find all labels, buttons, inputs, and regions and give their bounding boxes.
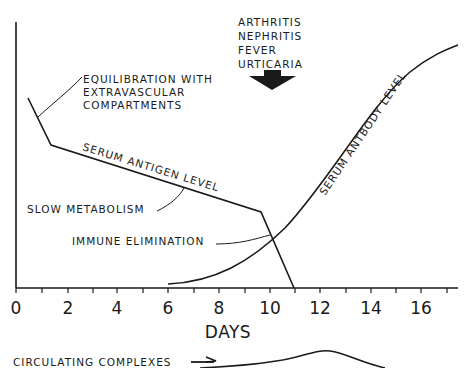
equilibration-annotation: EQUILIBRATION WITH EXTRAVASCULAR COMPART… — [83, 73, 213, 111]
svg-text:EXTRAVASCULAR: EXTRAVASCULAR — [83, 86, 185, 98]
tick-label-14: 14 — [360, 298, 382, 318]
serum-antibody-label: SERUM ANTBODY LEVEL — [317, 70, 408, 198]
svg-text:COMPARTMENTS: COMPARTMENTS — [83, 99, 182, 111]
svg-text:FEVER: FEVER — [238, 44, 277, 56]
tick-label-10: 10 — [259, 298, 281, 318]
equilibration-leader — [38, 77, 82, 117]
svg-text:URTICARIA: URTICARIA — [238, 58, 303, 70]
circulating-complexes-label: CIRCULATING COMPLEXES — [13, 356, 171, 368]
symptoms-annotation: ARTHRITIS NEPHRITIS FEVER URTICARIA — [238, 16, 303, 70]
svg-text:EQUILIBRATION WITH: EQUILIBRATION WITH — [83, 73, 213, 85]
tick-label-16: 16 — [410, 298, 432, 318]
tick-label-2: 2 — [63, 298, 74, 318]
circulating-complexes-curve — [200, 351, 385, 368]
serum-antigen-label: SERUM ANTIGEN LEVEL — [81, 140, 221, 193]
tick-label-8: 8 — [214, 298, 225, 318]
svg-text:ARTHRITIS: ARTHRITIS — [238, 16, 302, 28]
tick-label-0: 0 — [11, 298, 22, 318]
x-axis-tick-labels: 0 2 4 6 8 10 12 14 16 — [11, 298, 432, 318]
tick-label-4: 4 — [112, 298, 123, 318]
down-arrow-icon — [249, 70, 296, 90]
x-axis-title: DAYS — [205, 322, 251, 342]
right-arrow-icon — [191, 357, 216, 362]
immune-elimination-leader — [216, 235, 270, 244]
tick-label-6: 6 — [163, 298, 174, 318]
svg-text:NEPHRITIS: NEPHRITIS — [238, 30, 302, 42]
tick-label-12: 12 — [309, 298, 331, 318]
slow-metabolism-label: SLOW METABOLISM — [27, 203, 145, 215]
serum-antigen-line — [28, 98, 294, 288]
slow-metabolism-leader — [157, 188, 184, 211]
immune-elimination-label: IMMUNE ELIMINATION — [72, 235, 204, 247]
serum-sickness-diagram: 0 2 4 6 8 10 12 14 16 DAYS EQUILIBRATION… — [0, 0, 469, 368]
